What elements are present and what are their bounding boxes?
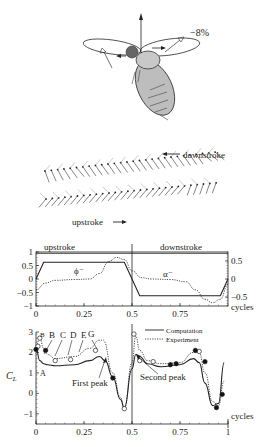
downstroke-label: downstroke	[183, 150, 225, 160]
legend-experiment-label: Experiment	[166, 336, 199, 344]
chart2-legend: Computation Experiment	[145, 327, 203, 344]
chart2-xlabel: cycles	[231, 411, 254, 421]
filled-marker	[111, 376, 115, 380]
downstroke-wing-section	[133, 161, 140, 171]
open-marker	[132, 332, 136, 336]
leading-edge-dot	[164, 157, 166, 159]
force-vector	[78, 189, 84, 195]
force-vector	[204, 177, 210, 183]
downstroke-wing-section	[171, 157, 178, 167]
force-vector	[166, 181, 172, 187]
leading-edge-dot	[114, 192, 116, 194]
leading-edge-dot	[102, 193, 104, 195]
downstroke-wing-section	[146, 160, 153, 170]
downstroke-wing-section	[70, 168, 77, 178]
fly-illustration: −8%	[82, 13, 209, 121]
upstroke-wing-section	[39, 199, 46, 207]
force-vector	[128, 185, 134, 191]
y-tick-label: 1	[29, 368, 34, 378]
leading-edge-dot	[177, 186, 179, 188]
legend-computation-label: Computation	[166, 327, 203, 335]
y-tick-label-left: −0.5	[17, 288, 34, 298]
downstroke-wing-section	[89, 166, 96, 176]
angle-chart: 00.250.50.7510.50−0.5−10.50−0.5 upstroke…	[17, 242, 254, 319]
force-vector	[108, 158, 113, 164]
x-tick-label: 0.75	[172, 309, 188, 319]
first-peak-label: First peak	[72, 378, 108, 388]
downstroke-wing-section	[158, 158, 165, 168]
leading-edge-dot	[88, 165, 90, 167]
wing-section-left	[104, 52, 112, 68]
force-vector	[58, 164, 63, 170]
downstroke-wing-section	[83, 167, 90, 177]
force-vector	[70, 162, 75, 168]
leading-edge-dot	[76, 167, 78, 169]
x-tick-label: 0.25	[76, 427, 92, 437]
leading-edge-dot	[151, 158, 153, 160]
downstroke-wing-section	[58, 170, 64, 181]
leading-edge-dot	[77, 195, 79, 197]
annotation-G-label: G	[88, 329, 95, 339]
x-tick-label: 0	[34, 309, 39, 319]
downstroke-wing-section	[77, 168, 85, 177]
open-marker	[68, 357, 72, 361]
annotation-B-label: B	[49, 330, 55, 340]
leading-edge-dot	[215, 182, 217, 184]
leading-edge-dot	[63, 168, 65, 170]
downstroke-wing-section	[51, 170, 56, 181]
force-vector	[158, 152, 163, 158]
leading-edge-dot	[139, 160, 141, 162]
downstroke-wing-section	[152, 159, 159, 169]
leading-edge-dot	[140, 189, 142, 191]
chart1-downstroke-label: downstroke	[160, 242, 202, 252]
open-marker	[151, 359, 155, 363]
right-arrow-icon	[122, 220, 127, 224]
open-marker	[122, 406, 126, 410]
annotation-D-label: D	[70, 330, 77, 340]
upstroke-wing-section	[193, 185, 197, 195]
upstroke-wing-section	[200, 184, 204, 194]
annotation-A-label: A	[40, 369, 46, 378]
force-vector	[133, 155, 138, 161]
force-vector	[103, 187, 109, 193]
filled-marker	[203, 359, 207, 363]
leading-edge-dot	[50, 169, 52, 171]
y-tick-label: 2	[29, 347, 34, 357]
percent-label: −8%	[190, 27, 209, 38]
leading-edge-dot	[101, 164, 103, 166]
series-line-computation	[36, 348, 224, 407]
upstroke-wing-section	[212, 183, 216, 193]
phi-label: ϕ⁻	[74, 266, 84, 276]
x-tick-label: 0	[34, 427, 39, 437]
downstroke-wing-section	[102, 165, 109, 175]
leading-edge-dot	[176, 155, 178, 157]
downstroke-wing-section	[95, 165, 102, 175]
leading-edge-dot	[64, 196, 66, 198]
filled-marker	[220, 392, 224, 396]
figure-canvas: −8% downstroke upstroke 00.250.50.7510.5…	[0, 0, 270, 447]
y-tick-label-left: −1	[23, 301, 33, 311]
filled-marker	[174, 361, 178, 365]
left-arrow-icon	[162, 152, 167, 156]
downstroke-wing-section	[45, 171, 49, 182]
y-tick-label: 3	[29, 327, 34, 337]
second-peak-label: Second peak	[140, 372, 186, 382]
open-marker	[53, 358, 57, 362]
upstroke-wing-section	[206, 183, 210, 193]
leading-edge-dot	[165, 187, 167, 189]
force-vector	[90, 188, 96, 194]
force-vector	[65, 191, 71, 197]
filled-marker	[193, 348, 197, 352]
y-tick-label-left: 1	[29, 247, 34, 257]
downstroke-wing-section	[121, 163, 128, 173]
leading-edge-dot	[152, 188, 154, 190]
wing-section-right	[165, 40, 180, 52]
chart1-upstroke-label: upstroke	[44, 242, 75, 252]
arrow-head-icon	[139, 13, 143, 20]
force-vector	[121, 157, 126, 163]
annotation-E-label: E	[81, 330, 87, 340]
force-vector	[179, 180, 185, 186]
force-vector	[191, 179, 197, 185]
annotation-B-label: B	[40, 331, 45, 339]
leading-edge-dot	[127, 190, 129, 192]
